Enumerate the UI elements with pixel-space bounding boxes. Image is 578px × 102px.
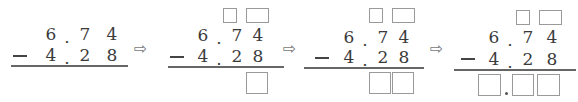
answer-box-tenths[interactable] — [512, 74, 534, 96]
minuend-digit-ones: 6 — [342, 29, 356, 46]
subtrahend-digit-tenths: 2 — [78, 47, 92, 64]
minus-sign — [170, 56, 184, 58]
answer-box-hundredths[interactable] — [537, 74, 560, 96]
minuend-digit-ones: 6 — [44, 26, 58, 43]
step-1-panel: 6 . 7 4 4 . 2 8 — [0, 0, 130, 102]
answer-box-hundredths[interactable] — [392, 72, 414, 94]
minuend-decimal-point: . — [215, 30, 223, 47]
answer-box-ones[interactable] — [478, 74, 501, 96]
minuend-digit-tenths: 7 — [78, 26, 92, 43]
sum-line — [454, 69, 576, 71]
subtrahend-digit-ones: 4 — [342, 49, 356, 66]
minuend-digit-tenths: 7 — [521, 29, 535, 46]
subtrahend-digit-ones: 4 — [44, 47, 58, 64]
right-arrow-icon: ⇨ — [134, 41, 147, 57]
subtrahend-digit-tenths: 2 — [521, 51, 535, 68]
sum-line — [304, 67, 424, 69]
step-2-panel: 6 . 7 4 4 . 2 8 — [150, 0, 285, 102]
borrow-box-ones[interactable] — [223, 8, 237, 23]
subtrahend-digit-tenths: 2 — [376, 49, 390, 66]
step-4-panel: 6 . 7 4 4 . 2 8 — [445, 0, 578, 102]
subtrahend-digit-tenths: 2 — [230, 48, 244, 65]
subtrahend-digit-hundredths: 8 — [545, 51, 559, 68]
minuend-digit-ones: 6 — [196, 27, 210, 44]
minuend-digit-hundredths: 4 — [397, 29, 411, 46]
minuend-decimal-point: . — [506, 32, 514, 49]
minuend-digit-tenths: 7 — [376, 29, 390, 46]
minuend-decimal-point: . — [361, 32, 369, 49]
subtrahend-digit-ones: 4 — [487, 51, 501, 68]
minuend-decimal-point: . — [63, 29, 71, 46]
borrow-box-tenths[interactable] — [539, 10, 562, 25]
borrow-box-ones[interactable] — [516, 10, 530, 25]
minuend-digit-hundredths: 4 — [251, 27, 265, 44]
sum-line — [168, 66, 284, 68]
minuend-digit-hundredths: 4 — [105, 26, 119, 43]
answer-decimal-point — [505, 92, 508, 95]
minuend-digit-hundredths: 4 — [545, 29, 559, 46]
subtrahend-digit-hundredths: 8 — [251, 48, 265, 65]
subtrahend-digit-ones: 4 — [196, 48, 210, 65]
minus-sign — [315, 57, 329, 59]
borrow-box-tenths[interactable] — [392, 8, 415, 23]
sum-line — [11, 65, 128, 67]
minus-sign — [13, 55, 27, 57]
minus-sign — [461, 58, 475, 60]
borrow-box-tenths[interactable] — [246, 8, 269, 23]
answer-box-hundredths[interactable] — [246, 72, 268, 94]
subtrahend-digit-hundredths: 8 — [105, 47, 119, 64]
minuend-digit-ones: 6 — [487, 29, 501, 46]
minuend-digit-tenths: 7 — [230, 27, 244, 44]
step-3-panel: 6 . 7 4 4 . 2 8 — [300, 0, 430, 102]
borrow-box-ones[interactable] — [369, 8, 383, 23]
right-arrow-icon: ⇨ — [430, 41, 443, 57]
answer-box-tenths[interactable] — [369, 72, 391, 94]
subtrahend-digit-hundredths: 8 — [397, 49, 411, 66]
right-arrow-icon: ⇨ — [283, 41, 296, 57]
